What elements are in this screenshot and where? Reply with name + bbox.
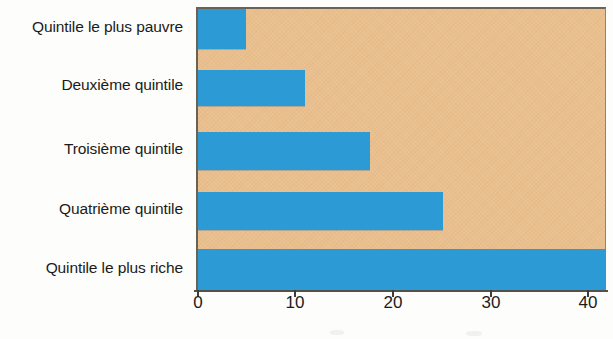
category-label-0: Quintile le plus pauvre — [32, 18, 183, 36]
category-label-1: Deuxième quintile — [61, 76, 183, 94]
category-label-4: Quintile le plus riche — [46, 259, 183, 277]
plot-area — [196, 7, 606, 290]
x-tick-label-4: 40 — [579, 293, 598, 313]
bar-4 — [198, 249, 606, 292]
bar-2 — [198, 132, 370, 170]
bar-3 — [198, 192, 443, 230]
bar-chart: Quintile le plus pauvre Deuxième quintil… — [0, 0, 613, 339]
x-tick-label-1: 10 — [286, 293, 305, 313]
category-label-2: Troisième quintile — [64, 140, 183, 158]
y-axis-category-labels: Quintile le plus pauvre Deuxième quintil… — [0, 0, 190, 292]
category-label-3: Quatrième quintile — [59, 200, 183, 218]
x-tick-label-0: 0 — [193, 293, 202, 313]
bar-1 — [198, 70, 305, 106]
x-tick-label-3: 30 — [482, 293, 501, 313]
bar-0 — [198, 9, 246, 49]
scan-artifact-1 — [330, 330, 344, 335]
scan-artifact-2 — [466, 331, 482, 336]
x-tick-label-2: 20 — [384, 293, 403, 313]
x-axis-line — [194, 290, 608, 292]
